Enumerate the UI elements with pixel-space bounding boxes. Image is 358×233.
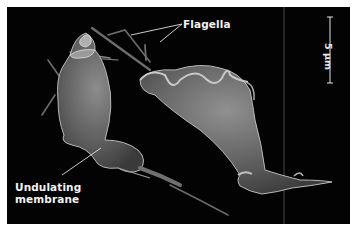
micrograph-figure: Flagella Undulating membrane 5 µm xyxy=(7,7,350,224)
scale-bar-label: 5 µm xyxy=(323,43,334,70)
flagella-label: Flagella xyxy=(183,18,231,30)
undulating-membrane-label: Undulating membrane xyxy=(15,181,81,205)
flagella-pointer-1 xyxy=(131,24,182,35)
membrane-pointer xyxy=(62,148,101,175)
left-cell-body xyxy=(58,33,144,172)
undulating-membrane-label-line2: membrane xyxy=(15,193,81,205)
undulating-membrane-label-line1: Undulating xyxy=(15,181,81,193)
right-cell-body xyxy=(140,65,332,194)
